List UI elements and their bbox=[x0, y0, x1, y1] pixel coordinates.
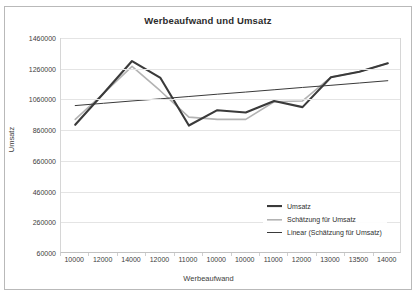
gridline bbox=[61, 130, 400, 131]
y-tick-label: 660000 bbox=[4, 157, 56, 164]
chart-legend[interactable]: UmsatzSchätzung für UmsatzLinear (Schätz… bbox=[263, 196, 387, 243]
x-tick-label: 12000 bbox=[150, 256, 169, 263]
x-tick-mark bbox=[316, 253, 317, 256]
x-tick-mark bbox=[60, 253, 61, 256]
x-tick-mark bbox=[259, 253, 260, 256]
x-tick-mark bbox=[145, 253, 146, 256]
y-tick-label: 60000 bbox=[4, 250, 56, 257]
y-tick-label: 1460000 bbox=[4, 35, 56, 42]
x-tick-mark bbox=[202, 253, 203, 256]
gridline bbox=[61, 192, 400, 193]
gridline bbox=[61, 69, 400, 70]
x-tick-label: 12000 bbox=[292, 256, 311, 263]
legend-item[interactable]: Umsatz bbox=[267, 200, 382, 213]
x-tick-label: 13500 bbox=[349, 256, 368, 263]
legend-label: Linear (Schätzung für Umsatz) bbox=[287, 229, 382, 236]
x-tick-mark bbox=[88, 253, 89, 256]
x-tick-label: 10000 bbox=[235, 256, 254, 263]
gridline bbox=[61, 161, 400, 162]
x-tick-label: 10000 bbox=[64, 256, 83, 263]
x-tick-mark bbox=[373, 253, 374, 256]
x-tick-mark bbox=[344, 253, 345, 256]
legend-color-swatch bbox=[267, 231, 282, 234]
legend-item[interactable]: Schätzung für Umsatz bbox=[267, 213, 382, 226]
x-tick-label: 11000 bbox=[264, 256, 283, 263]
x-tick-label: 11000 bbox=[178, 256, 197, 263]
y-tick-label: 260000 bbox=[4, 219, 56, 226]
legend-label: Umsatz bbox=[287, 203, 311, 210]
legend-label: Schätzung für Umsatz bbox=[287, 216, 356, 223]
series-line bbox=[75, 81, 388, 106]
x-tick-label: 14000 bbox=[377, 256, 396, 263]
gridline bbox=[61, 99, 400, 100]
x-axis-ticks: 1000012000140001200011000100001000011000… bbox=[60, 256, 401, 270]
x-tick-mark bbox=[287, 253, 288, 256]
y-tick-label: 860000 bbox=[4, 127, 56, 134]
y-axis-ticks: 6000026000046000066000086000010600001260… bbox=[3, 38, 56, 253]
chart-title: Werbeaufwand und Umsatz bbox=[5, 15, 411, 26]
x-tick-label: 14000 bbox=[121, 256, 140, 263]
x-tick-mark bbox=[117, 253, 118, 256]
x-axis-title: Werbeaufwand bbox=[0, 274, 417, 283]
gridline bbox=[61, 38, 400, 39]
y-tick-label: 1060000 bbox=[4, 96, 56, 103]
legend-color-swatch bbox=[267, 204, 282, 208]
x-tick-label: 12000 bbox=[93, 256, 112, 263]
legend-color-swatch bbox=[267, 218, 282, 222]
x-tick-mark bbox=[174, 253, 175, 256]
y-tick-label: 460000 bbox=[4, 188, 56, 195]
legend-item[interactable]: Linear (Schätzung für Umsatz) bbox=[267, 226, 382, 239]
x-tick-label: 10000 bbox=[207, 256, 226, 263]
x-tick-mark bbox=[231, 253, 232, 256]
x-tick-label: 13000 bbox=[320, 256, 339, 263]
y-tick-label: 1260000 bbox=[4, 65, 56, 72]
